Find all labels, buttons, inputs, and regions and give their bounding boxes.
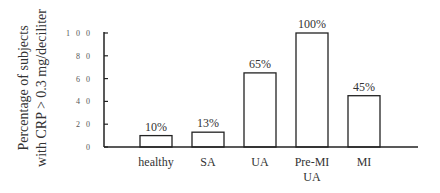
category-label: Pre-MI	[295, 155, 330, 169]
category-label: UA	[251, 155, 269, 169]
category-label: UA	[303, 170, 321, 184]
y-tick-label: 0	[86, 143, 92, 152]
y-axis: 02 04 06 08 01 0 0	[66, 29, 108, 152]
bar-ua	[244, 73, 276, 147]
bars: 10%13%65%100%45%	[140, 17, 380, 147]
y-tick-label: 1 0 0	[66, 29, 92, 38]
category-label: SA	[200, 155, 216, 169]
bar-chart: Percentage of subjectswith CRP > 0.3 mg/…	[0, 0, 440, 193]
value-label: 13%	[197, 116, 219, 130]
y-tick-label: 4 0	[76, 97, 92, 106]
category-label: MI	[357, 155, 372, 169]
bar-pre-mi-ua	[296, 33, 328, 147]
bar-mi	[348, 96, 380, 147]
value-label: 45%	[353, 80, 375, 94]
value-label: 65%	[249, 57, 271, 71]
y-tick-label: 6 0	[76, 75, 92, 84]
y-axis-label: Percentage of subjectswith CRP > 0.3 mg/…	[16, 9, 49, 167]
bar-healthy	[140, 136, 172, 147]
category-label: healthy	[138, 155, 173, 169]
y-axis-label-line: Percentage of subjects	[16, 25, 31, 150]
value-label: 10%	[145, 120, 167, 134]
y-tick-label: 8 0	[76, 52, 92, 61]
bar-sa	[192, 132, 224, 147]
x-axis: healthySAUAPre-MIUAMI	[104, 147, 418, 184]
y-axis-label-line: with CRP > 0.3 mg/deciliter	[34, 9, 49, 167]
y-tick-label: 2 0	[76, 120, 92, 129]
value-label: 100%	[298, 17, 326, 31]
